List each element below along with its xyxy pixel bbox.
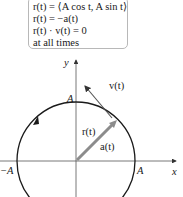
velocity-vector-label: v(t) [109, 80, 124, 91]
position-vector-label: r(t) [82, 126, 95, 137]
velocity-vector [85, 86, 112, 118]
circular-motion-diagram [0, 0, 183, 197]
circle-right-label: A [137, 165, 143, 176]
acceleration-vector-label: a(t) [100, 141, 115, 152]
y-axis-label: y [64, 57, 69, 68]
circle-left-label: −A [0, 165, 14, 176]
x-axis-label: x [172, 166, 177, 177]
circle-top-label: A [67, 93, 73, 104]
